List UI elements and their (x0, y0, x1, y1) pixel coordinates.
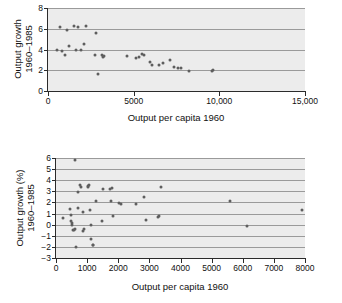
data-point (150, 64, 153, 67)
data-point (58, 25, 61, 28)
chart-bottom-output-growth-pct: Output growth (%) 1960–1985 Output per c… (0, 150, 342, 303)
data-point (87, 186, 90, 189)
data-point (168, 58, 171, 61)
y-axis-tick (44, 29, 48, 30)
plot-area-top (48, 8, 305, 91)
data-point (161, 61, 164, 64)
chart-top-output-growth: Output growth 1960–1985 Output per capit… (0, 0, 342, 140)
x-axis-tick-label: 3000 (140, 264, 159, 273)
data-point (55, 48, 58, 51)
data-point (96, 73, 99, 76)
gridline (56, 236, 305, 237)
y-axis-tick-label: 2 (24, 66, 43, 75)
data-point (110, 187, 113, 190)
data-point (137, 56, 140, 59)
data-point (212, 69, 215, 72)
data-point (68, 207, 71, 210)
y-axis-tick (52, 180, 56, 181)
x-axis-tick-label: 5000 (202, 264, 221, 273)
data-point (61, 217, 64, 220)
y-axis-tick-label: 4 (32, 176, 51, 185)
y-axis-tick-label: −2 (32, 242, 51, 251)
x-axis-tick-label: 15,000 (292, 97, 318, 106)
gridline (56, 214, 305, 215)
figure-scatter-plots: Output growth 1960–1985 Output per capit… (0, 0, 342, 303)
data-point (83, 228, 86, 231)
gridline (48, 70, 305, 71)
y-axis-tick (44, 8, 48, 9)
data-point (109, 199, 112, 202)
gridline (56, 158, 305, 159)
x-axis-line (47, 91, 306, 92)
x-axis-tick-label: 6000 (233, 264, 252, 273)
x-axis-title-top: Output per capita 1960 (128, 112, 225, 123)
y-axis-tick-label: 6 (32, 154, 51, 163)
data-point (74, 48, 77, 51)
gridline (48, 50, 305, 51)
y-axis-line (55, 158, 56, 259)
gridline (48, 29, 305, 30)
data-point (87, 183, 90, 186)
y-axis-tick (52, 158, 56, 159)
y-axis-title-bottom-line1: Output growth (%) (14, 156, 25, 260)
plot-area-bottom (56, 158, 305, 258)
x-axis-tick-label: 2000 (109, 264, 128, 273)
data-point (72, 24, 75, 27)
data-point (74, 245, 77, 248)
data-point (63, 53, 66, 56)
data-point (92, 244, 95, 247)
data-point (120, 202, 123, 205)
y-axis-title-top-line1: Output growth (12, 6, 23, 92)
data-point (94, 54, 97, 57)
gridline (56, 225, 305, 226)
data-point (188, 69, 191, 72)
data-point (82, 211, 85, 214)
data-point (179, 67, 182, 70)
data-point (79, 185, 82, 188)
y-axis-tick (52, 169, 56, 170)
data-point (134, 203, 137, 206)
data-point (111, 214, 114, 217)
data-point (142, 54, 145, 57)
x-axis-tick-label: 7000 (264, 264, 283, 273)
data-point (61, 49, 64, 52)
y-axis-tick-label: −1 (32, 231, 51, 240)
data-point (143, 195, 146, 198)
x-axis-tick-label: 1000 (78, 264, 97, 273)
data-point (65, 28, 68, 31)
y-axis-tick (52, 202, 56, 203)
data-point (300, 209, 303, 212)
data-point (79, 49, 82, 52)
data-point (246, 224, 249, 227)
gridline (48, 8, 305, 9)
data-point (77, 207, 80, 210)
y-axis-tick (52, 214, 56, 215)
data-point (172, 66, 175, 69)
gridline (56, 169, 305, 170)
data-point (69, 213, 72, 216)
data-point (76, 191, 79, 194)
y-axis-tick-label: 0 (24, 87, 43, 96)
data-point (74, 227, 77, 230)
x-axis-tick-label: 0 (46, 97, 51, 106)
y-axis-tick-label: 5 (32, 165, 51, 174)
y-axis-tick (52, 225, 56, 226)
x-axis-tick-label: 5000 (124, 97, 143, 106)
data-point (94, 200, 97, 203)
data-point (77, 25, 80, 28)
data-point (160, 185, 163, 188)
y-axis-tick-label: 3 (32, 187, 51, 196)
x-axis-tick-label: 4000 (171, 264, 190, 273)
data-point (229, 200, 232, 203)
gridline (56, 180, 305, 181)
data-point (158, 215, 161, 218)
x-axis-tick-label: 10,000 (206, 97, 232, 106)
y-axis-tick-label: 1 (32, 209, 51, 218)
y-axis-tick-label: 6 (24, 24, 43, 33)
y-axis-tick (44, 70, 48, 71)
y-axis-tick (52, 247, 56, 248)
gridline (56, 191, 305, 192)
gridline (56, 247, 305, 248)
data-point (102, 188, 105, 191)
x-axis-tick-label: 8000 (296, 264, 315, 273)
